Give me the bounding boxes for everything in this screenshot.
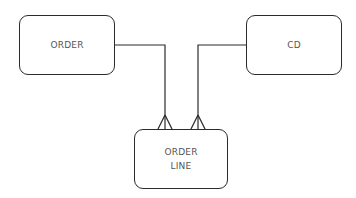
entity-label: CD [287, 38, 301, 52]
relationship-cd-orderline [198, 45, 246, 129]
entity-label: ORDER LINE [164, 145, 197, 173]
relationship-order-orderline [115, 45, 165, 129]
er-diagram: ORDER CD ORDER LINE [0, 0, 356, 198]
entity-label: ORDER [50, 38, 83, 52]
entity-cd: CD [246, 15, 342, 75]
entity-order-line: ORDER LINE [134, 129, 228, 189]
entity-order: ORDER [19, 15, 115, 75]
